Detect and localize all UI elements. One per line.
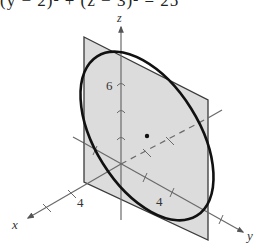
x-axis-neg-extension xyxy=(208,110,222,118)
y-axis-back xyxy=(73,137,84,143)
x-axis-label: x xyxy=(11,217,18,232)
z-tick-label: 6 xyxy=(106,78,113,93)
center-point xyxy=(145,134,149,138)
y-tick-label: 4 xyxy=(156,194,163,209)
diagram-3d: z y x 6 4 4 xyxy=(0,0,266,249)
y-axis-label: y xyxy=(245,228,253,243)
x-tick-label: 4 xyxy=(77,195,84,210)
z-axis-label: z xyxy=(116,11,122,25)
